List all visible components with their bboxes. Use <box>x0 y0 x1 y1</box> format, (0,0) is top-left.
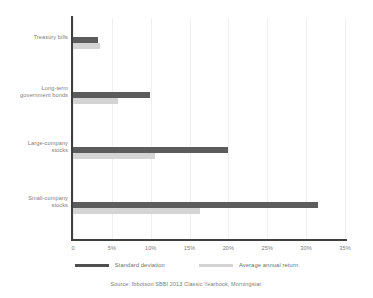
legend-swatch-icon <box>199 264 233 267</box>
plot-area <box>73 18 345 239</box>
category-label-line2: stocks <box>0 202 68 209</box>
bar-chart: Treasury bills Long-term government bond… <box>0 0 373 298</box>
category-label-treasury-bills: Treasury bills <box>0 34 68 41</box>
legend-item-standard-deviation: Standard deviation <box>75 262 165 268</box>
x-tick-label-0: 0 <box>58 245 88 251</box>
x-tick-label-35: 35% <box>330 245 360 251</box>
x-tick-label-25: 25% <box>252 245 282 251</box>
chart-legend: Standard deviation Average annual return <box>0 262 373 268</box>
x-tick-label-10: 10% <box>136 245 166 251</box>
gridline-35 <box>345 18 346 239</box>
category-label-line1: Long-term <box>0 85 68 92</box>
x-axis-line <box>71 239 347 241</box>
bar-average-annual-return <box>73 98 118 104</box>
x-tick-label-5: 5% <box>97 245 127 251</box>
category-label-large-company-stocks: Large-company stocks <box>0 140 68 155</box>
category-label-line1: Treasury bills <box>0 34 68 41</box>
legend-label: Standard deviation <box>115 262 165 268</box>
category-label-line2: stocks <box>0 147 68 154</box>
category-label-line1: Small-company <box>0 195 68 202</box>
source-note: Source: Ibbotson SBBI 2013 Classic Yearb… <box>0 281 373 287</box>
category-label-line2: government bonds <box>0 92 68 99</box>
x-tick-label-15: 15% <box>175 245 205 251</box>
legend-item-average-annual-return: Average annual return <box>199 262 298 268</box>
category-label-long-term-government-bonds: Long-term government bonds <box>0 85 68 100</box>
category-label-small-company-stocks: Small-company stocks <box>0 195 68 210</box>
bar-average-annual-return <box>73 208 200 214</box>
category-label-line1: Large-company <box>0 140 68 147</box>
legend-swatch-icon <box>75 264 109 267</box>
bar-average-annual-return <box>73 43 100 49</box>
bar-average-annual-return <box>73 153 155 159</box>
y-axis-line <box>71 16 73 241</box>
x-tick-label-20: 20% <box>213 245 243 251</box>
legend-label: Average annual return <box>239 262 298 268</box>
x-tick-label-30: 30% <box>291 245 321 251</box>
